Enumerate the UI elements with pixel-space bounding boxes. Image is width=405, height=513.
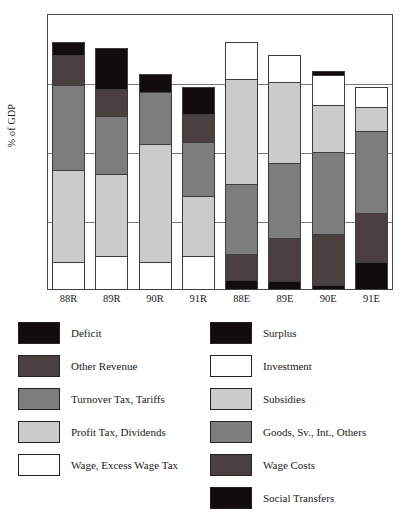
bar-91E[interactable] bbox=[355, 87, 388, 290]
legend-label: Profit Tax, Dividends bbox=[71, 426, 166, 438]
legend-column-left: DeficitOther RevenueTurnover Tax, Tariff… bbox=[18, 316, 218, 481]
segment-88E-social-transfers[interactable] bbox=[225, 280, 258, 290]
segment-91E-social-transfers[interactable] bbox=[355, 262, 388, 290]
legend-swatch-icon bbox=[18, 355, 60, 377]
segment-88R-turnover-tax-tariffs[interactable] bbox=[52, 85, 85, 171]
segment-90E-goods-sv-int-others[interactable] bbox=[312, 152, 345, 235]
legend-item-wage-costs[interactable]: Wage Costs bbox=[210, 448, 405, 481]
x-tick-88E: 88E bbox=[220, 293, 264, 304]
segment-90E-social-transfers[interactable] bbox=[312, 285, 345, 290]
segment-88R-deficit[interactable] bbox=[52, 42, 85, 56]
legend-column-right: SurplusInvestmentSubsidiesGoods, Sv., In… bbox=[210, 316, 405, 513]
segment-91E-investment[interactable] bbox=[355, 87, 388, 108]
segment-89R-profit-tax-dividends[interactable] bbox=[95, 174, 128, 257]
legend-label: Wage, Excess Wage Tax bbox=[71, 459, 178, 471]
legend-swatch-icon bbox=[18, 454, 60, 476]
segment-88R-profit-tax-dividends[interactable] bbox=[52, 170, 85, 263]
legend-swatch-icon bbox=[18, 421, 60, 443]
legend-swatch-icon bbox=[210, 388, 252, 410]
x-tick-90E: 90E bbox=[306, 293, 350, 304]
x-axis-tick-labels: 88R89R90R91R88E89E90E91E bbox=[47, 293, 393, 311]
legend-item-social-transfers[interactable]: Social Transfers bbox=[210, 481, 405, 513]
legend-swatch-icon bbox=[18, 388, 60, 410]
bar-90E[interactable] bbox=[312, 71, 345, 290]
bar-88R[interactable] bbox=[52, 42, 85, 290]
segment-91E-subsidies[interactable] bbox=[355, 107, 388, 133]
bar-90R[interactable] bbox=[139, 74, 172, 290]
legend-label: Other Revenue bbox=[71, 360, 137, 372]
legend-label: Surplus bbox=[263, 327, 297, 339]
segment-88R-wage-excess-wage-tax[interactable] bbox=[52, 262, 85, 290]
x-tick-91E: 91E bbox=[349, 293, 393, 304]
legend-item-other-revenue[interactable]: Other Revenue bbox=[18, 349, 218, 382]
segment-88E-investment[interactable] bbox=[225, 42, 258, 80]
legend-swatch-icon bbox=[18, 322, 60, 344]
segment-90E-investment[interactable] bbox=[312, 75, 345, 105]
legend-swatch-icon bbox=[210, 355, 252, 377]
x-tick-89E: 89E bbox=[263, 293, 307, 304]
legend-label: Social Transfers bbox=[263, 492, 334, 504]
segment-91E-wage-costs[interactable] bbox=[355, 213, 388, 263]
segment-91E-goods-sv-int-others[interactable] bbox=[355, 131, 388, 214]
legend-swatch-icon bbox=[210, 421, 252, 443]
segment-89R-deficit[interactable] bbox=[95, 48, 128, 91]
segment-88E-goods-sv-int-others[interactable] bbox=[225, 184, 258, 255]
legend-item-subsidies[interactable]: Subsidies bbox=[210, 382, 405, 415]
segment-89E-subsidies[interactable] bbox=[268, 82, 301, 164]
chart-legend: DeficitOther RevenueTurnover Tax, Tariff… bbox=[0, 316, 405, 496]
legend-item-profit-tax-dividends[interactable]: Profit Tax, Dividends bbox=[18, 415, 218, 448]
legend-item-wage-excess-wage-tax[interactable]: Wage, Excess Wage Tax bbox=[18, 448, 218, 481]
legend-item-turnover-tax-tariffs[interactable]: Turnover Tax, Tariffs bbox=[18, 382, 218, 415]
stacked-bar-chart: % of GDP 010203040 88R89R90R91R88E89E90E… bbox=[0, 0, 405, 315]
y-axis-title: % of GDP bbox=[6, 91, 17, 161]
legend-item-goods-sv-int-others[interactable]: Goods, Sv., Int., Others bbox=[210, 415, 405, 448]
bar-89R[interactable] bbox=[95, 48, 128, 290]
x-tick-88R: 88R bbox=[47, 293, 91, 304]
legend-label: Turnover Tax, Tariffs bbox=[71, 393, 165, 405]
bars-layer bbox=[47, 14, 393, 290]
legend-label: Subsidies bbox=[263, 393, 305, 405]
segment-88R-other-revenue[interactable] bbox=[52, 55, 85, 86]
segment-89E-wage-costs[interactable] bbox=[268, 238, 301, 282]
segment-91R-turnover-tax-tariffs[interactable] bbox=[182, 142, 215, 197]
x-tick-91R: 91R bbox=[176, 293, 220, 304]
bar-91R[interactable] bbox=[182, 87, 215, 290]
segment-88E-subsidies[interactable] bbox=[225, 79, 258, 185]
legend-swatch-icon bbox=[210, 454, 252, 476]
bar-88E[interactable] bbox=[225, 42, 258, 290]
legend-swatch-icon bbox=[210, 487, 252, 509]
legend-item-surplus[interactable]: Surplus bbox=[210, 316, 405, 349]
segment-90R-wage-excess-wage-tax[interactable] bbox=[139, 262, 172, 290]
legend-label: Goods, Sv., Int., Others bbox=[263, 426, 366, 438]
segment-89R-turnover-tax-tariffs[interactable] bbox=[95, 116, 128, 175]
legend-item-deficit[interactable]: Deficit bbox=[18, 316, 218, 349]
x-tick-89R: 89R bbox=[90, 293, 134, 304]
segment-90E-wage-costs[interactable] bbox=[312, 234, 345, 286]
legend-label: Deficit bbox=[71, 327, 102, 339]
segment-90R-turnover-tax-tariffs[interactable] bbox=[139, 92, 172, 145]
segment-89R-other-revenue[interactable] bbox=[95, 89, 128, 117]
segment-89E-social-transfers[interactable] bbox=[268, 281, 301, 290]
legend-label: Wage Costs bbox=[263, 459, 315, 471]
segment-90R-profit-tax-dividends[interactable] bbox=[139, 144, 172, 263]
segment-90E-subsidies[interactable] bbox=[312, 105, 345, 153]
segment-89R-wage-excess-wage-tax[interactable] bbox=[95, 256, 128, 291]
segment-91R-wage-excess-wage-tax[interactable] bbox=[182, 256, 215, 291]
x-tick-90R: 90R bbox=[133, 293, 177, 304]
segment-89E-investment[interactable] bbox=[268, 55, 301, 83]
segment-91R-other-revenue[interactable] bbox=[182, 114, 215, 144]
segment-91R-profit-tax-dividends[interactable] bbox=[182, 196, 215, 256]
legend-swatch-icon bbox=[210, 322, 252, 344]
segment-90R-deficit[interactable] bbox=[139, 74, 172, 93]
legend-label: Investment bbox=[263, 360, 312, 372]
segment-91R-deficit[interactable] bbox=[182, 87, 215, 115]
legend-item-investment[interactable]: Investment bbox=[210, 349, 405, 382]
segment-88E-wage-costs[interactable] bbox=[225, 254, 258, 281]
bar-89E[interactable] bbox=[268, 55, 301, 290]
segment-89E-goods-sv-int-others[interactable] bbox=[268, 163, 301, 239]
